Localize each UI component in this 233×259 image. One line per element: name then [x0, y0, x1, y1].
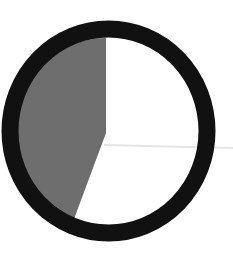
pie-graphic [0, 0, 233, 259]
pie-indicator [0, 0, 233, 259]
